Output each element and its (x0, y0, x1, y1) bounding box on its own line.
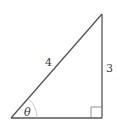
right-triangle-diagram: 4 3 θ (0, 0, 117, 126)
triangle-hypotenuse (11, 14, 102, 118)
hypotenuse-label: 4 (45, 56, 52, 69)
right-angle-marker (91, 107, 102, 118)
opposite-side-label: 3 (106, 62, 113, 75)
angle-theta-label: θ (24, 106, 31, 119)
